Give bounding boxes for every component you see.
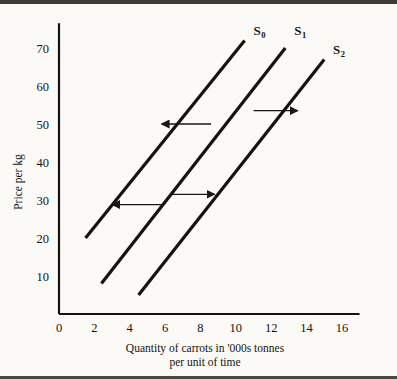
x-tick-label: 14 [300,321,313,335]
curve-label-S2: S2 [333,42,345,60]
chart-axes [59,23,360,314]
x-axis-title-line1: Quantity of carrots in '000s tonnes [126,342,285,355]
x-tick-label: 6 [162,321,168,335]
y-tick-label: 50 [37,118,50,132]
x-tick-label: 0 [56,321,62,335]
supply-curve-chart: 10203040506070 0246810121416 S0S1S2 Pric… [0,0,397,379]
y-tick-label: 20 [37,232,50,246]
x-axis-tick-labels: 0246810121416 [56,321,348,335]
x-tick-label: 4 [127,321,134,335]
supply-curves [86,40,325,295]
supply-curve-S2 [139,59,325,295]
y-axis-title: Price per kg [12,154,25,210]
supply-curve-labels: S0S1S2 [253,23,345,60]
x-tick-label: 2 [91,321,97,335]
y-tick-label: 30 [37,194,50,208]
figure-panel: 10203040506070 0246810121416 S0S1S2 Pric… [0,0,397,379]
x-tick-label: 8 [197,321,203,335]
supply-shift-arrows [112,111,298,205]
x-tick-label: 16 [336,321,349,335]
x-tick-label: 10 [230,321,243,335]
supply-curve-S0 [86,40,245,238]
curve-label-S0: S0 [253,23,265,41]
y-axis-tick-labels: 10203040506070 [37,42,50,284]
x-axis-title-line2: per unit of time [169,356,240,369]
y-tick-label: 10 [37,270,50,284]
curve-label-S1: S1 [294,23,306,41]
x-tick-label: 12 [265,321,278,335]
y-tick-label: 40 [37,156,50,170]
supply-curve-S1 [101,48,285,284]
y-tick-label: 60 [37,80,50,94]
y-tick-label: 70 [37,42,50,56]
